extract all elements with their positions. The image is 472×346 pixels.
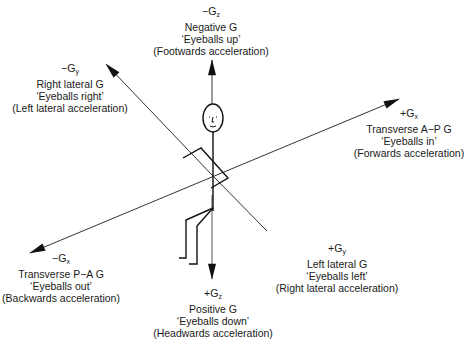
y-axis-left-line [212,175,267,231]
symbol-pos-gz: +Gz [153,287,273,303]
x-axis-backward-arrow [30,177,212,253]
symbol-neg-gz: −Gz [153,5,269,21]
label-line: ‘Eyeballs left’ [276,270,399,282]
label-line: ‘Eyeballs right’ [12,90,128,102]
label-line: Right lateral G [12,78,128,90]
label-line: ‘Eyeballs down’ [153,315,273,327]
label-neg-gz: −Gz Negative G ‘Eyeballs up’ (Footwards … [153,5,269,57]
symbol-pos-gx: +Gx [354,107,464,123]
label-neg-gy: −Gy Right lateral G ‘Eyeballs right’ (Le… [12,62,128,114]
symbol-neg-gy: −Gy [12,62,128,78]
label-neg-gx: −Gx Transverse P−A G ‘Eyeballs out’ (Bac… [2,252,120,304]
label-pos-gy: +Gy Left lateral G ‘Eyeballs left’ (Righ… [276,242,399,294]
label-line: (Footwards acceleration) [153,45,269,57]
symbol-neg-gx: −Gx [2,252,120,268]
label-line: Negative G [153,21,269,33]
label-line: (Backwards acceleration) [2,292,120,304]
label-line: ‘Eyeballs up’ [153,33,269,45]
label-pos-gz: +Gz Positive G ‘Eyeballs down’ (Headward… [153,287,273,339]
label-line: (Forwards acceleration) [354,147,464,159]
label-line: Positive G [153,303,273,315]
label-line: Transverse P−A G [2,268,120,280]
label-line: (Headwards acceleration) [153,327,273,339]
label-line: Transverse A−P G [354,123,464,135]
label-line: ‘Eyeballs out’ [2,280,120,292]
left-leg [179,208,213,258]
symbol-pos-gy: +Gy [276,242,399,258]
label-line: (Left lateral acceleration) [12,102,128,114]
label-line: Left lateral G [276,258,399,270]
label-line: ‘Eyeballs in’ [354,135,464,147]
label-line: (Right lateral acceleration) [276,282,399,294]
label-pos-gx: +Gx Transverse A−P G ‘Eyeballs in’ (Forw… [354,107,464,159]
